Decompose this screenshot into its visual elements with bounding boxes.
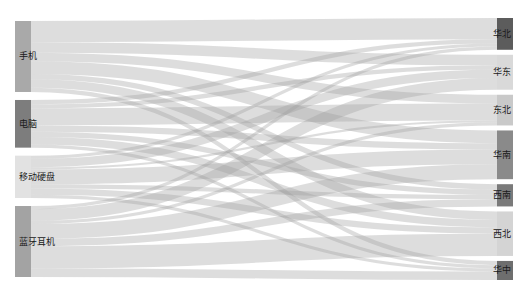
- node-label: 手机: [19, 50, 37, 61]
- node-label: 西北: [493, 229, 511, 239]
- node-label: 华东: [493, 66, 511, 77]
- node-label: 电脑: [19, 118, 37, 129]
- sankey-chart: 手机电脑移动硬盘蓝牙耳机华北华东东北华南西南西北华中: [0, 0, 528, 293]
- node-label: 华中: [493, 264, 511, 275]
- node-label: 华北: [493, 28, 511, 39]
- node-label: 蓝牙耳机: [19, 236, 55, 247]
- node-label: 华南: [493, 149, 511, 160]
- node-label: 西南: [493, 189, 511, 200]
- sankey-link: [31, 29, 497, 32]
- sankey-link: [31, 273, 497, 276]
- sankey-link: [31, 245, 497, 258]
- node-label: 东北: [493, 104, 511, 115]
- node-label: 移动硬盘: [19, 171, 55, 182]
- sankey-links: [31, 29, 497, 276]
